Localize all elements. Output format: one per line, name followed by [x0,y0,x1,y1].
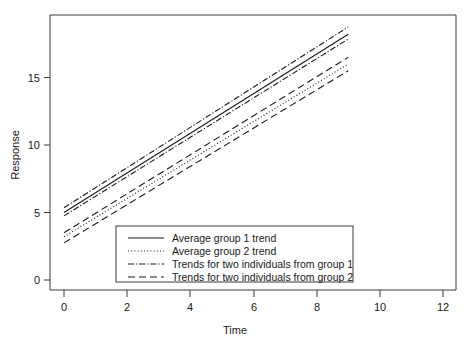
x-tick-label-6: 6 [251,301,257,313]
legend: Average group 1 trend Average group 2 tr… [116,226,353,283]
legend-label-3: Trends for two individuals from group 2 [172,271,353,283]
chart-figure: 0 5 10 15 0 2 4 6 8 10 12 Time Response [0,0,472,342]
y-axis-title: Response [9,130,21,180]
legend-label-1: Average group 2 trend [172,245,276,257]
x-tick-label-10: 10 [374,301,386,313]
legend-label-2: Trends for two individuals from group 1 [172,258,353,270]
x-tick-label-0: 0 [61,301,67,313]
x-tick-label-4: 4 [187,301,193,313]
y-tick-label-0: 0 [34,274,40,286]
x-tick-label-2: 2 [124,301,130,313]
x-tick-label-8: 8 [314,301,320,313]
y-tick-label-5: 5 [34,207,40,219]
x-axis-title: Time [223,324,247,336]
legend-label-0: Average group 1 trend [172,232,276,244]
chart-background [0,0,472,342]
y-tick-label-15: 15 [28,72,40,84]
y-tick-label-10: 10 [28,139,40,151]
line-chart: 0 5 10 15 0 2 4 6 8 10 12 Time Response [0,0,472,342]
x-tick-label-12: 12 [437,301,449,313]
